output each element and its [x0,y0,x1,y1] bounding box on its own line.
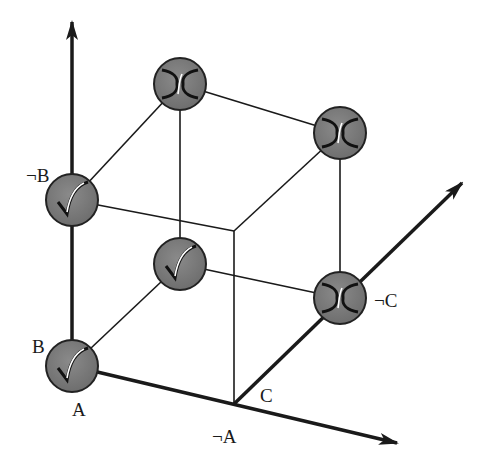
node-check [154,238,206,290]
label-not-c: ¬C [374,291,397,310]
node-check [46,174,98,226]
label-b: B [32,337,45,356]
node-check [46,340,98,392]
label-not-a: ¬A [212,427,236,446]
node-cross [154,58,206,110]
boolean-cube-diagram [0,0,479,462]
node-cross [314,107,366,159]
label-c: C [260,386,273,405]
label-not-b: ¬B [26,166,49,185]
node-cross [314,272,366,324]
cube-edges [72,84,340,404]
label-a: A [72,400,86,419]
axes [72,22,462,443]
